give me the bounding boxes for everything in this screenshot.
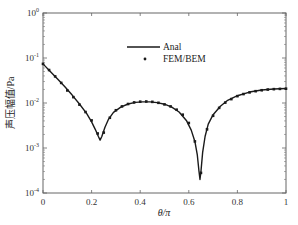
- data-point: [194, 140, 197, 143]
- data-point: [218, 107, 221, 110]
- data-point: [115, 109, 118, 112]
- data-point: [96, 132, 99, 135]
- data-point: [181, 113, 184, 116]
- legend-label-fem-bem: FEM/BEM: [163, 54, 206, 64]
- legend-label-anal: Anal: [163, 42, 182, 52]
- data-point: [133, 101, 136, 104]
- y-tick-label: 10-4: [25, 187, 39, 198]
- legend-dot-symbol: [144, 58, 147, 61]
- data-point: [54, 75, 57, 78]
- y-tick-label: 10-3: [25, 142, 39, 153]
- data-point: [242, 93, 245, 96]
- x-tick-label: 1: [284, 197, 289, 207]
- x-tick-label: 0.8: [232, 197, 244, 207]
- data-point: [157, 102, 160, 105]
- data-point: [145, 100, 148, 103]
- data-point: [260, 89, 263, 92]
- x-axis-label: θ/π: [158, 207, 172, 218]
- data-point: [279, 88, 282, 91]
- x-tick-label: 0.4: [135, 197, 147, 207]
- y-minor-ticks: [43, 15, 286, 179]
- data-point: [60, 82, 63, 85]
- data-point: [72, 96, 75, 99]
- legend: Anal FEM/BEM: [127, 42, 206, 64]
- data-point: [254, 90, 257, 93]
- data-point: [139, 100, 142, 103]
- y-tick-label: 10-1: [25, 52, 39, 63]
- data-point: [206, 128, 209, 131]
- data-point: [266, 88, 269, 91]
- x-tick-label: 0.2: [86, 197, 97, 207]
- data-point: [236, 95, 239, 98]
- data-point: [90, 119, 93, 122]
- data-point: [285, 87, 288, 90]
- data-point: [109, 116, 112, 119]
- data-point: [163, 103, 166, 106]
- data-point: [102, 131, 105, 134]
- data-point: [151, 101, 154, 104]
- y-axis-label: 声压幅值/Pa: [4, 76, 16, 129]
- y-tick-label: 100: [27, 7, 39, 18]
- data-point: [42, 63, 45, 66]
- data-point: [127, 103, 130, 106]
- data-point: [248, 91, 251, 94]
- data-point: [175, 108, 178, 111]
- data-point: [200, 172, 203, 175]
- data-point: [230, 98, 233, 101]
- chart: 00.20.40.60.81 10010-110-210-310-4 Anal …: [0, 0, 298, 225]
- data-point: [78, 103, 81, 106]
- series-fem-bem-markers: [42, 63, 288, 175]
- data-point: [273, 88, 276, 91]
- data-point: [84, 111, 87, 114]
- data-point: [188, 122, 191, 125]
- data-point: [121, 105, 124, 108]
- data-point: [66, 89, 69, 92]
- series-anal-line: [43, 64, 286, 180]
- data-point: [169, 105, 172, 108]
- x-tick-label: 0: [41, 197, 46, 207]
- data-point: [224, 101, 227, 104]
- data-point: [212, 114, 215, 117]
- y-tick-label: 10-2: [25, 97, 39, 108]
- x-tick-label: 0.6: [183, 197, 195, 207]
- data-point: [48, 69, 51, 72]
